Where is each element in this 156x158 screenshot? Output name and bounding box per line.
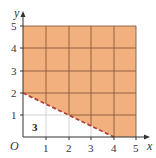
y-axis-arrow-icon	[21, 11, 26, 17]
y-axis-label: y	[13, 6, 20, 20]
x-tick-2: 2	[66, 142, 72, 154]
y-tick-4: 4	[11, 42, 17, 54]
y-tick-1: 1	[11, 109, 17, 121]
y-tick-5: 5	[11, 20, 17, 32]
inequality-graph: y x O 5 4 3 2 1 1 2 3 4 5 3	[0, 0, 156, 158]
y-tick-3: 3	[11, 65, 17, 77]
x-tick-5: 5	[133, 142, 139, 154]
x-tick-1: 1	[43, 142, 49, 154]
y-tick-2: 2	[11, 87, 17, 99]
shaded-region	[23, 26, 136, 137]
x-axis-label: x	[146, 139, 153, 153]
origin-label: O	[10, 139, 19, 153]
x-tick-3: 3	[88, 142, 94, 154]
x-tick-4: 4	[111, 142, 117, 154]
region-label: 3	[32, 121, 38, 133]
